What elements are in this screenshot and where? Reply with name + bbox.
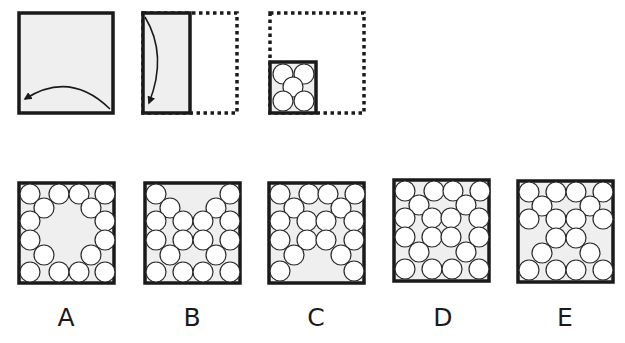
hole-icon [49, 262, 69, 282]
hole-icon [297, 211, 317, 231]
hole-icon [284, 245, 304, 265]
hole-icon [469, 259, 489, 279]
hole-icon [173, 211, 193, 231]
hole-icon [81, 245, 101, 265]
paper-sheet [19, 13, 113, 113]
hole-icon [270, 211, 290, 231]
hole-icon [546, 228, 566, 248]
hole-icon [20, 211, 40, 231]
hole-icon [146, 230, 166, 250]
hole-icon [344, 211, 364, 231]
hole-icon [220, 211, 240, 231]
hole-icon [173, 262, 193, 282]
fold-step-1 [19, 13, 113, 113]
hole-icon [95, 211, 115, 231]
option-label-b[interactable]: B [172, 305, 212, 330]
hole-icon [193, 211, 213, 231]
answer-options [19, 180, 613, 283]
hole-icon [20, 262, 40, 282]
hole-icon [441, 227, 461, 247]
fold-step-3 [270, 13, 364, 113]
hole-icon [316, 230, 336, 250]
hole-icon [34, 245, 54, 265]
option-label-e[interactable]: E [545, 305, 585, 330]
hole-icon [424, 181, 444, 201]
hole-icon [49, 184, 69, 204]
hole-icon [532, 243, 552, 263]
option-b[interactable] [145, 183, 240, 283]
hole-icon [593, 209, 613, 229]
hole-icon [160, 245, 180, 265]
hole-icon [566, 209, 586, 229]
hole-icon [593, 260, 613, 280]
option-label-d[interactable]: D [423, 305, 463, 330]
hole-icon [220, 230, 240, 250]
hole-icon [422, 259, 442, 279]
hole-icon [395, 259, 415, 279]
hole-icon [546, 209, 566, 229]
hole-icon [20, 230, 40, 250]
hole-icon [220, 262, 240, 282]
hole-icon [95, 230, 115, 250]
hole-icon [193, 262, 213, 282]
option-label-c[interactable]: C [296, 305, 336, 330]
hole-icon [95, 262, 115, 282]
hole-icon [146, 262, 166, 282]
fold-step-2 [143, 13, 237, 113]
hole-icon [469, 208, 489, 228]
option-e[interactable] [518, 181, 613, 282]
paper-folding-puzzle: ABCDE [0, 0, 625, 343]
punch-hole-icon [294, 91, 314, 111]
hole-icon [422, 208, 442, 228]
option-a[interactable] [19, 183, 115, 283]
hole-icon [316, 211, 336, 231]
hole-icon [519, 260, 539, 280]
hole-icon [270, 230, 290, 250]
hole-icon [331, 245, 351, 265]
hole-icon [146, 211, 166, 231]
hole-icon [206, 245, 226, 265]
hole-icon [299, 184, 319, 204]
hole-icon [395, 208, 415, 228]
puzzle-canvas [0, 0, 625, 343]
hole-icon [546, 260, 566, 280]
hole-icon [344, 261, 364, 281]
hole-icon [580, 243, 600, 263]
hole-icon [395, 227, 415, 247]
hole-icon [566, 260, 586, 280]
option-d[interactable] [394, 180, 490, 281]
hole-icon [441, 208, 461, 228]
fold-steps [19, 13, 364, 113]
hole-icon [456, 242, 476, 262]
punch-hole-icon [273, 91, 293, 111]
hole-icon [69, 262, 89, 282]
hole-icon [519, 209, 539, 229]
hole-icon [409, 242, 429, 262]
option-label-a[interactable]: A [46, 305, 86, 330]
hole-icon [270, 261, 290, 281]
option-c[interactable] [269, 183, 365, 283]
hole-icon [566, 228, 586, 248]
hole-icon [442, 259, 462, 279]
